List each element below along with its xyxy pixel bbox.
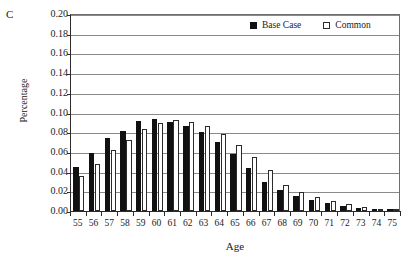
bar-group [181, 15, 197, 211]
bar-group [385, 15, 401, 211]
bar-common [315, 197, 320, 211]
y-axis-tick-label: 0.10 [22, 108, 68, 118]
x-axis-tick-label: 68 [277, 218, 287, 229]
x-axis-tick-mark [306, 211, 307, 216]
bar-common [79, 176, 84, 211]
bar-common [268, 170, 273, 211]
x-axis-tick-label: 74 [372, 218, 382, 229]
x-axis-tick-label: 75 [387, 218, 397, 229]
x-axis-tick-label: 61 [167, 218, 177, 229]
x-axis-tick-label: 60 [152, 218, 162, 229]
bar-base-case [199, 132, 204, 211]
x-axis-tick-mark [227, 211, 228, 216]
bar-group [165, 15, 181, 211]
bar-group [71, 15, 87, 211]
bar-base-case [152, 119, 157, 211]
bar-base-case [105, 138, 110, 211]
x-axis-tick-label: 58 [120, 218, 130, 229]
bar-base-case [136, 121, 141, 211]
bar-common [236, 145, 241, 211]
bar-group [228, 15, 244, 211]
bar-base-case [277, 190, 282, 211]
bar-base-case [120, 131, 125, 211]
x-axis-tick-label: 59 [136, 218, 146, 229]
x-axis-tick-label: 69 [293, 218, 303, 229]
bar-common [158, 123, 163, 211]
bar-common [142, 129, 147, 211]
x-axis-tick-label: 64 [215, 218, 225, 229]
x-axis-tick-mark [321, 211, 322, 216]
legend-item-base-case: Base Case [250, 20, 301, 30]
x-axis-tick-mark [384, 211, 385, 216]
y-axis-tick-label: 0.02 [22, 186, 68, 196]
x-axis-tick-mark [259, 211, 260, 216]
bar-group [87, 15, 103, 211]
bar-group [338, 15, 354, 211]
bar-group [134, 15, 150, 211]
x-axis-tick-mark [180, 211, 181, 216]
x-axis-tick-label: 73 [356, 218, 366, 229]
x-axis-tick-mark [290, 211, 291, 216]
x-axis-title: Age [70, 240, 400, 252]
bar-group [354, 15, 370, 211]
x-axis-tick-label: 63 [199, 218, 209, 229]
x-axis-tick-label: 66 [246, 218, 256, 229]
bar-base-case [167, 122, 172, 211]
x-axis-tick-label: 62 [183, 218, 193, 229]
y-axis-tick-label: 0.04 [22, 167, 68, 177]
bar-common [173, 120, 178, 211]
x-axis-tick-mark [369, 211, 370, 216]
y-axis-tick-label: 0.00 [22, 206, 68, 216]
bar-base-case [246, 168, 251, 211]
x-axis-tick-mark [86, 211, 87, 216]
bar-group [322, 15, 338, 211]
x-axis-tick-label: 55 [73, 218, 83, 229]
x-axis-tick-mark [337, 211, 338, 216]
bar-base-case [262, 182, 267, 211]
y-axis-tick-label: 0.08 [22, 127, 68, 137]
bar-common [126, 140, 131, 211]
x-axis-tick-mark [164, 211, 165, 216]
bar-common [205, 126, 210, 211]
bar-base-case [230, 154, 235, 211]
y-axis-tick-label: 0.12 [22, 88, 68, 98]
x-axis-tick-mark [117, 211, 118, 216]
bar-base-case [89, 153, 94, 211]
x-axis-tick-label: 65 [230, 218, 240, 229]
x-axis-tick-mark [400, 211, 401, 216]
y-axis-tick-label: 0.16 [22, 48, 68, 58]
bar-group [370, 15, 386, 211]
x-axis-tick-label: 70 [309, 218, 319, 229]
y-axis-tick-label: 0.18 [22, 29, 68, 39]
bar-group [260, 15, 276, 211]
bar-base-case [215, 142, 220, 211]
y-axis-tick-labels: 0.000.020.040.060.080.100.120.140.160.18… [22, 0, 68, 271]
bar-group [275, 15, 291, 211]
bar-group [307, 15, 323, 211]
chart-container: C Percentage 0.000.020.040.060.080.100.1… [0, 0, 420, 271]
plot-area [70, 14, 400, 211]
y-axis-tick-label: 0.06 [22, 147, 68, 157]
x-axis-tick-label: 71 [325, 218, 335, 229]
bar-common [252, 157, 257, 211]
bar-common [95, 164, 100, 211]
bar-series-group [71, 15, 399, 211]
bar-group [291, 15, 307, 211]
legend-swatch-common-icon [323, 22, 330, 29]
bar-common [299, 192, 304, 211]
bar-group [118, 15, 134, 211]
bar-common [189, 122, 194, 211]
x-axis-tick-mark [274, 211, 275, 216]
x-axis-tick-mark [353, 211, 354, 216]
bar-base-case [309, 200, 314, 211]
bar-base-case [73, 167, 78, 211]
bar-group [102, 15, 118, 211]
x-axis-tick-marks [70, 211, 400, 217]
bar-common [111, 150, 116, 211]
x-axis-tick-label: 72 [340, 218, 350, 229]
legend-item-common: Common [323, 20, 370, 30]
x-axis-tick-mark [243, 211, 244, 216]
bar-base-case [293, 196, 298, 211]
x-axis-tick-mark [70, 211, 71, 216]
x-axis-tick-mark [101, 211, 102, 216]
